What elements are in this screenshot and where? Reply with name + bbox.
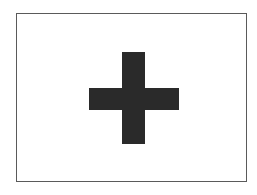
plus-cross-icon-horizontal-bar [89,88,179,110]
